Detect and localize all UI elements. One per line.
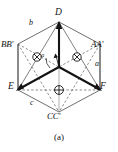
figure-container: D E F BB′ AA′ CC′ b a c α (a) [0,0,118,152]
vertex-label-d: D [55,8,62,18]
angle-label-alpha: α [41,52,44,58]
cross-circle-left [33,53,41,61]
axis-label-b: b [29,19,33,27]
axis-label-c: c [30,99,33,107]
edge-label-cc-prime: CC′ [47,112,60,121]
figure-caption: (a) [0,132,118,142]
cross-circle-right [73,53,81,61]
vertex-label-e: E [8,82,14,92]
edge-label-aa-prime: AA′ [91,40,103,49]
plus-circle-bottom [54,85,63,94]
axis-label-a: a [95,60,99,68]
vertex-label-f: F [100,82,106,92]
edge-label-bb-prime: BB′ [1,40,13,49]
